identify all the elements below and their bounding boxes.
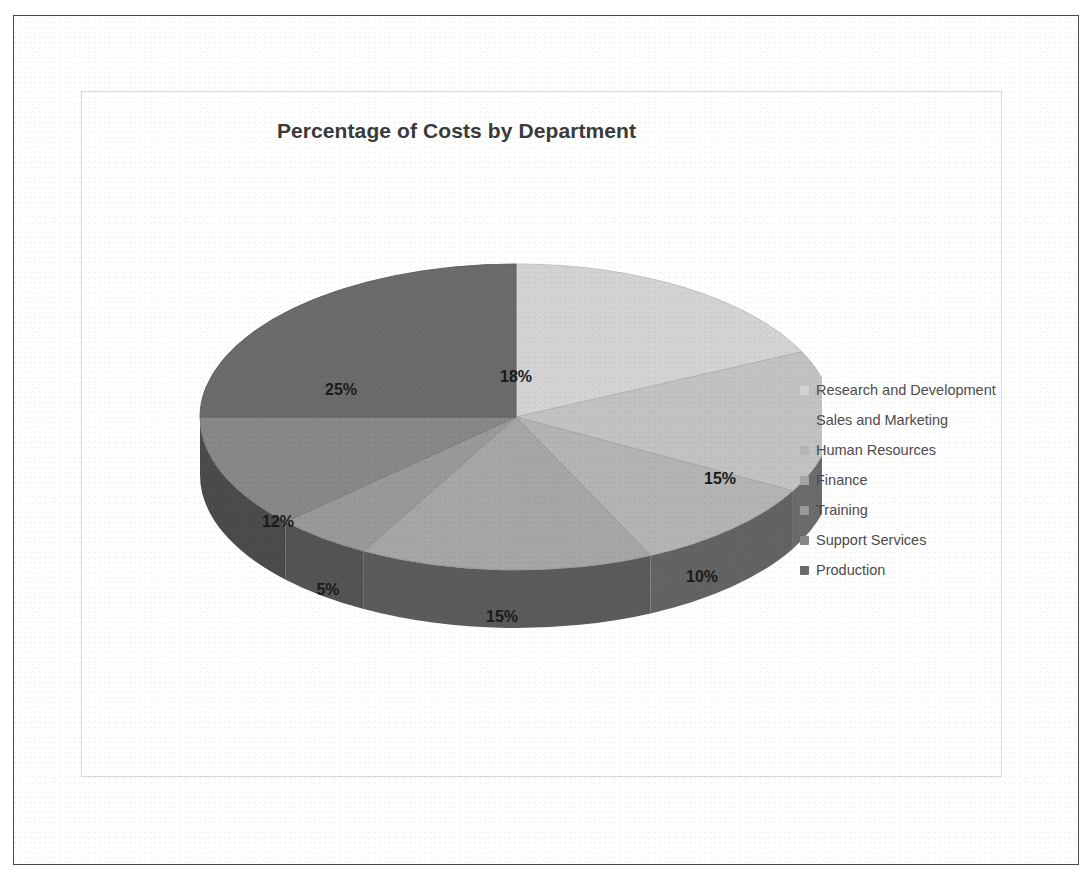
legend-item-label: Finance [816, 473, 868, 488]
pie-data-label: 25% [325, 381, 357, 398]
pie-data-label: 12% [262, 513, 294, 530]
legend-swatch-icon [800, 446, 809, 455]
legend-item[interactable]: Production [800, 555, 1000, 585]
legend-item-label: Human Resources [816, 443, 936, 458]
legend-item[interactable]: Research and Development [800, 375, 1000, 405]
pie-data-label: 10% [686, 568, 718, 585]
pie-data-label: 15% [486, 608, 518, 625]
pie-chart[interactable]: 18%15%10%15%5%12%25% [122, 257, 822, 677]
legend-swatch-icon [800, 536, 809, 545]
legend-item-label: Research and Development [816, 383, 996, 398]
legend-item[interactable]: Sales and Marketing [800, 405, 1000, 435]
legend-item[interactable]: Finance [800, 465, 1000, 495]
legend-item-label: Support Services [816, 533, 926, 548]
legend-item[interactable]: Human Resources [800, 435, 1000, 465]
plot-area: 18%15%10%15%5%12%25% Research and Develo… [82, 92, 1001, 776]
legend-swatch-icon [800, 416, 809, 425]
chart-container: Percentage of Costs by Department 18%15%… [81, 91, 1002, 777]
pie-data-label: 15% [704, 470, 736, 487]
chart-legend: Research and DevelopmentSales and Market… [800, 375, 1000, 585]
legend-swatch-icon [800, 476, 809, 485]
legend-item[interactable]: Training [800, 495, 1000, 525]
legend-swatch-icon [800, 506, 809, 515]
scanned-page-frame: Percentage of Costs by Department 18%15%… [13, 15, 1079, 865]
legend-swatch-icon [800, 566, 809, 575]
pie-data-label: 5% [316, 581, 339, 598]
legend-item-label: Sales and Marketing [816, 413, 948, 428]
pie-data-label: 18% [500, 368, 532, 385]
legend-item-label: Training [816, 503, 868, 518]
legend-item-label: Production [816, 563, 885, 578]
pie-slice[interactable] [200, 264, 516, 417]
legend-item[interactable]: Support Services [800, 525, 1000, 555]
legend-swatch-icon [800, 386, 809, 395]
